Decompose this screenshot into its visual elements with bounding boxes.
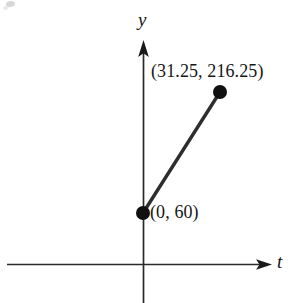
data-point-lower — [136, 206, 150, 220]
t-axis-label: t — [277, 252, 282, 271]
y-axis-label: y — [138, 10, 146, 29]
coordinate-plane — [0, 0, 294, 303]
graph-figure: y t (31.25, 216.25) (0, 60) — [0, 0, 294, 303]
lower-point-coordinate-label: (0, 60) — [150, 203, 199, 221]
line-segment — [143, 92, 220, 213]
upper-point-coordinate-label: (31.25, 216.25) — [151, 62, 264, 80]
data-point-upper — [213, 85, 227, 99]
